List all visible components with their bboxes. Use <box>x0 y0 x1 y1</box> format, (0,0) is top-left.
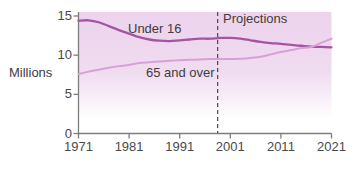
y-tick-label-5: 5 <box>44 87 72 101</box>
x-tick-label-1981: 1981 <box>107 140 151 154</box>
population-age-line-chart: Millions Under 16 65 and over Projection… <box>0 0 362 173</box>
y-tick-label-15: 15 <box>44 9 72 23</box>
x-tick-label-2011: 2011 <box>259 140 303 154</box>
x-tick-label-1991: 1991 <box>158 140 202 154</box>
projections-label: Projections <box>223 12 287 26</box>
y-tick-label-10: 10 <box>44 48 72 62</box>
series-label-under-16: Under 16 <box>128 22 181 36</box>
series-label-65-and-over: 65 and over <box>146 66 215 80</box>
y-axis-title: Millions <box>9 66 52 80</box>
x-tick-label-1971: 1971 <box>57 140 101 154</box>
x-tick-label-2001: 2001 <box>208 140 252 154</box>
x-tick-label-2021: 2021 <box>310 140 354 154</box>
